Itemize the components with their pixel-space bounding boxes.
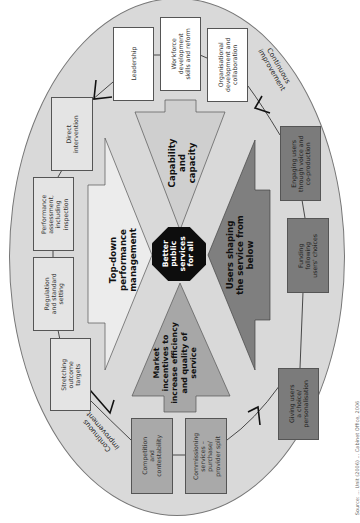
competition-label: Competition and contestability <box>141 418 163 494</box>
organisational-label: Organisational development and collabora… <box>217 28 239 102</box>
center-goal: Better public services for all <box>152 227 206 281</box>
engaging-label: Engaging users through voice and co-prod… <box>290 126 312 201</box>
giving-users-label: Giving users a choice/ personalisation <box>288 368 310 440</box>
performance-assessment-label: Performance assessment, including inspec… <box>39 177 68 251</box>
giving-users-box: Giving users a choice/ personalisation <box>278 368 319 440</box>
top-down-label: Top-down performance management <box>108 205 138 315</box>
leadership-box: Leadership <box>113 27 154 101</box>
organisational-box: Organisational development and collabora… <box>207 28 248 102</box>
direct-intervention-box: Direct intervention <box>51 97 93 171</box>
stretching-box: Stretching outcome targets <box>50 338 91 411</box>
workforce-label: Workforce development skills and reform <box>170 17 192 91</box>
workforce-box: Workforce development skills and reform <box>160 17 201 91</box>
competition-box: Competition and contestability <box>131 418 173 494</box>
center-label: Better public services for all <box>162 224 196 284</box>
commissioning-box: Commissioning services – purchase/ provi… <box>185 418 227 494</box>
commissioning-label: Commissioning services – purchase/ provi… <box>192 418 221 494</box>
source-note: Source: ... Unit (2006) ... Cabinet Offi… <box>354 401 360 516</box>
engaging-box: Engaging users through voice and co-prod… <box>280 126 321 201</box>
users-label: Users shaping the service from below <box>225 205 255 305</box>
funding-box: Funding following users' choices <box>287 218 329 293</box>
stretching-label: Stretching outcome targets <box>60 338 82 411</box>
funding-label: Funding following users' choices <box>297 218 319 293</box>
regulation-label: Regulation and standard setting <box>43 257 65 331</box>
capability-label: Capability and capacity <box>167 133 197 193</box>
performance-assessment-box: Performance assessment, including inspec… <box>33 177 74 251</box>
direct-intervention-label: Direct intervention <box>65 97 79 171</box>
market-label: Market incentives to increase efficiency… <box>152 318 198 408</box>
regulation-box: Regulation and standard setting <box>33 257 74 331</box>
leadership-label: Leadership <box>130 27 137 101</box>
